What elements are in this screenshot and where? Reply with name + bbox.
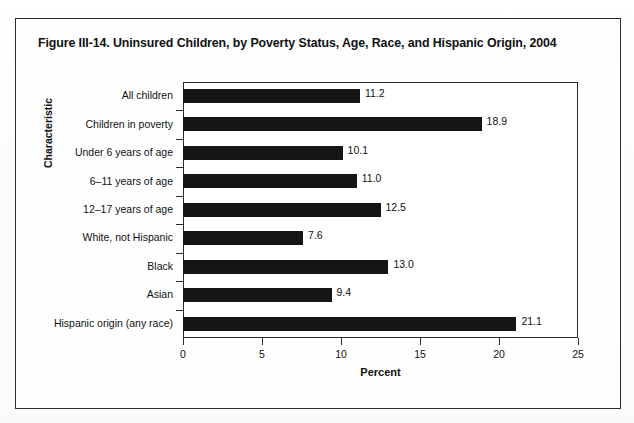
bar-value-label: 11.0 [362, 172, 382, 184]
y-axis-category-labels: All childrenChildren in povertyUnder 6 y… [0, 82, 178, 338]
bar [183, 231, 303, 245]
y-axis-title: Characteristic [42, 98, 54, 168]
y-axis-tick-label: Asian [0, 288, 173, 300]
bar [183, 117, 482, 131]
y-axis-tick-mark [176, 253, 183, 254]
x-axis-tick-label: 15 [414, 348, 426, 360]
y-axis-tick-label: Black [0, 260, 173, 272]
x-axis-tick-label: 25 [572, 348, 584, 360]
bar-series: 11.218.910.111.012.57.613.09.421.1 [183, 82, 578, 338]
y-axis-tick-label: 6–11 years of age [0, 175, 173, 187]
y-axis-tick-label: Hispanic origin (any race) [0, 317, 173, 329]
bar [183, 203, 381, 217]
y-axis-tick-mark [176, 310, 183, 311]
x-axis-tick-mark [578, 338, 579, 345]
y-axis-tick-mark [176, 167, 183, 168]
y-axis-tick-label: 12–17 years of age [0, 203, 173, 215]
y-axis-tick-mark [176, 281, 183, 282]
y-axis-tick-mark [176, 196, 183, 197]
x-axis-tick-label: 10 [335, 348, 347, 360]
bar [183, 174, 357, 188]
x-axis-tick-label: 20 [493, 348, 505, 360]
bar-row: 10.1 [183, 139, 578, 167]
bar-row: 12.5 [183, 196, 578, 224]
bar-value-label: 12.5 [386, 201, 406, 213]
figure-screenshot: Figure III-14. Uninsured Children, by Po… [0, 0, 634, 423]
bar-value-label: 7.6 [308, 229, 323, 241]
bar-row: 21.1 [183, 310, 578, 338]
bar-value-label: 13.0 [393, 258, 413, 270]
bar-value-label: 9.4 [337, 286, 352, 298]
bar-row: 11.0 [183, 167, 578, 195]
y-axis-tick-mark [176, 110, 183, 111]
x-axis-tick-mark [262, 338, 263, 345]
bar [183, 317, 516, 331]
y-axis-tick-label: All children [0, 89, 173, 101]
figure-title: Figure III-14. Uninsured Children, by Po… [38, 36, 598, 50]
bar-value-label: 21.1 [521, 315, 541, 327]
bar-row: 13.0 [183, 253, 578, 281]
y-axis-tick-label: Children in poverty [0, 118, 173, 130]
bar-row: 11.2 [183, 82, 578, 110]
x-axis-tick-mark [341, 338, 342, 345]
bar-value-label: 18.9 [487, 115, 507, 127]
x-axis-tick-mark [420, 338, 421, 345]
bar-row: 9.4 [183, 281, 578, 309]
x-axis-tick-label: 5 [259, 348, 265, 360]
bar [183, 260, 388, 274]
y-axis-tick-mark [176, 224, 183, 225]
bar [183, 146, 343, 160]
x-axis-tick-mark [183, 338, 184, 345]
y-axis-tick-mark [176, 139, 183, 140]
x-axis-title: Percent [183, 366, 578, 378]
bar [183, 89, 360, 103]
bar-value-label: 10.1 [348, 144, 368, 156]
bar-row: 18.9 [183, 110, 578, 138]
bar [183, 288, 332, 302]
bar-value-label: 11.2 [365, 87, 385, 99]
x-axis-tick-label: 0 [180, 348, 186, 360]
bar-row: 7.6 [183, 224, 578, 252]
y-axis-tick-label: White, not Hispanic [0, 231, 173, 243]
x-axis-tick-mark [499, 338, 500, 345]
y-axis-tick-label: Under 6 years of age [0, 146, 173, 158]
